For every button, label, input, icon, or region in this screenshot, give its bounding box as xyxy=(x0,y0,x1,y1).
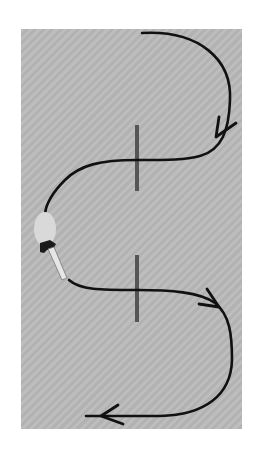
object-tube xyxy=(48,247,67,280)
object xyxy=(34,212,67,280)
arrow-head-icon xyxy=(199,289,219,307)
lower-path xyxy=(69,280,232,416)
object-body xyxy=(34,212,56,246)
arrow-head-icon xyxy=(101,405,123,424)
trajectory-diagram xyxy=(0,0,257,456)
